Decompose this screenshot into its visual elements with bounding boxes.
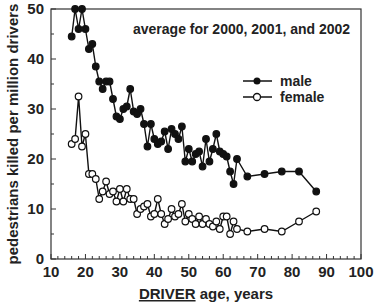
legend-female-marker-icon [254, 94, 261, 101]
data-point-female [120, 198, 127, 205]
data-point-male [230, 181, 237, 188]
data-point-male [165, 146, 172, 153]
data-point-male [223, 153, 230, 160]
x-tick-label: 40 [146, 263, 163, 280]
data-point-female [182, 218, 189, 225]
data-point-male [278, 168, 285, 175]
data-point-male [110, 96, 117, 103]
line-chart: 01020304050 102030405060708090100 averag… [0, 0, 380, 307]
legend: male female [243, 73, 325, 105]
data-point-female [227, 231, 234, 238]
data-point-female [144, 201, 151, 208]
x-axis-label: DRIVER age, years [139, 285, 273, 302]
chart-annotation: average for 2000, 2001, and 2002 [133, 21, 350, 37]
data-point-male [199, 163, 206, 170]
data-point-male [206, 158, 213, 165]
x-axis-label-driver: DRIVER [139, 285, 196, 302]
legend-label-male: male [280, 73, 312, 89]
data-point-male [261, 171, 268, 178]
data-point-male [210, 146, 217, 153]
x-tick-label: 30 [112, 263, 129, 280]
data-point-female [79, 143, 86, 150]
data-point-male [72, 6, 79, 13]
data-point-male [196, 148, 203, 155]
data-point-male [213, 131, 220, 138]
data-point-male [161, 128, 168, 135]
data-point-male [185, 146, 192, 153]
data-point-female [192, 221, 199, 228]
data-point-female [110, 188, 117, 195]
x-tick-label: 20 [77, 263, 94, 280]
data-point-male [99, 86, 106, 93]
x-tick-label: 90 [318, 263, 335, 280]
y-tick-label: 10 [27, 200, 44, 217]
data-point-male [296, 168, 303, 175]
data-point-male [117, 116, 124, 123]
data-point-female [230, 218, 237, 225]
data-point-male [92, 63, 99, 70]
data-point-female [72, 136, 79, 143]
data-point-female [313, 208, 320, 215]
data-point-female [92, 176, 99, 183]
data-point-female [278, 228, 285, 235]
data-point-female [196, 213, 203, 220]
data-point-male [89, 41, 96, 48]
data-point-male [79, 6, 86, 13]
data-point-male [189, 158, 196, 165]
legend-male-marker-icon [254, 78, 261, 85]
x-axis-label-rest: age, years [196, 285, 274, 302]
data-point-female [113, 198, 120, 205]
data-point-female [151, 211, 158, 218]
data-point-male [141, 121, 148, 128]
data-point-male [313, 188, 320, 195]
x-tick-label: 10 [43, 263, 60, 280]
legend-label-female: female [280, 89, 325, 105]
data-point-male [179, 123, 186, 130]
x-axis: 102030405060708090100 [43, 254, 374, 280]
data-point-female [261, 226, 268, 233]
data-point-male [127, 86, 134, 93]
data-point-male [123, 103, 130, 110]
data-point-female [123, 186, 130, 193]
data-point-male [148, 121, 155, 128]
data-point-male [137, 106, 144, 113]
data-point-female [234, 226, 241, 233]
data-point-female [117, 186, 124, 193]
data-point-female [158, 211, 165, 218]
y-tick-label: 20 [27, 150, 44, 167]
data-point-female [165, 216, 172, 223]
data-point-male [158, 138, 165, 145]
x-tick-label: 50 [180, 263, 197, 280]
series-group [68, 6, 319, 238]
data-point-female [296, 218, 303, 225]
data-point-female [99, 188, 106, 195]
data-point-female [96, 196, 103, 203]
data-point-female [216, 226, 223, 233]
data-point-female [179, 201, 186, 208]
data-point-female [175, 211, 182, 218]
data-point-male [234, 156, 241, 163]
y-axis: 01020304050 [27, 0, 56, 267]
data-point-female [130, 196, 137, 203]
data-point-female [82, 131, 89, 138]
data-point-male [96, 78, 103, 85]
y-tick-label: 30 [27, 100, 44, 117]
data-point-female [213, 218, 220, 225]
data-point-male [244, 173, 251, 180]
data-point-male [182, 158, 189, 165]
y-tick-label: 40 [27, 50, 44, 67]
series-line-female [72, 97, 317, 235]
data-point-female [103, 178, 110, 185]
data-point-female [168, 206, 175, 213]
x-tick-label: 70 [249, 263, 266, 280]
x-tick-label: 100 [348, 263, 373, 280]
data-point-male [82, 26, 89, 33]
data-point-male [68, 33, 75, 40]
y-tick-label: 50 [27, 0, 44, 17]
y-axis-label: pedestrians killed per million drivers [4, 4, 21, 265]
data-point-female [75, 93, 82, 100]
data-point-male [144, 143, 151, 150]
data-point-male [203, 136, 210, 143]
data-point-male [75, 26, 82, 33]
x-tick-label: 60 [215, 263, 232, 280]
